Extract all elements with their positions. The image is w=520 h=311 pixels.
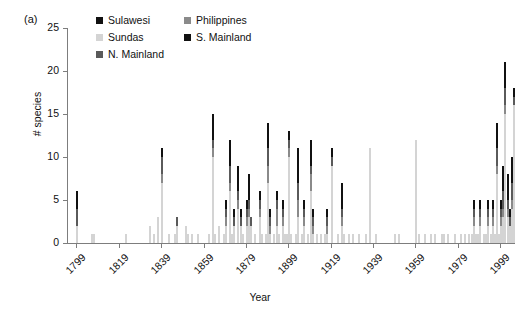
bar-segment-s_mainland xyxy=(248,183,250,200)
bar-segment-sundas xyxy=(398,234,400,243)
bar-segment-philippines xyxy=(341,217,343,226)
x-tick-label: 1959 xyxy=(402,251,427,276)
bar-1949 xyxy=(394,234,396,243)
bar-segment-n_mainland xyxy=(473,209,475,218)
x-tick-label: 1839 xyxy=(148,251,173,276)
bar-segment-sundas xyxy=(161,183,163,243)
x-tick xyxy=(373,244,374,248)
y-tick xyxy=(63,114,67,115)
bar-segment-s_mainland xyxy=(288,131,290,140)
bar-segment-n_mainland xyxy=(267,148,269,165)
legend-swatch-icon xyxy=(184,17,191,24)
bar-1851 xyxy=(187,234,189,243)
bar-segment-philippines xyxy=(487,217,489,226)
bar-segment-s_mainland xyxy=(237,174,239,191)
x-tick-label: 1979 xyxy=(445,251,470,276)
bar-segment-philippines xyxy=(310,174,312,191)
bar-1932 xyxy=(358,234,360,243)
bar-segment-n_mainland xyxy=(76,209,78,226)
bar-segment-philippines xyxy=(212,148,214,157)
bar-segment-n_mainland xyxy=(176,217,178,226)
bar-1914 xyxy=(320,234,322,243)
bar-segment-sundas xyxy=(261,234,263,243)
bar-segment-sundas xyxy=(434,234,436,243)
bar-segment-philippines xyxy=(312,226,314,235)
bar-segment-philippines xyxy=(248,209,250,218)
bar-segment-s_mainland xyxy=(161,148,163,157)
bar-segment-sundas xyxy=(369,148,371,243)
bar-segment-sundas xyxy=(242,234,244,243)
plot-area xyxy=(68,28,515,243)
bar-segment-sundas xyxy=(212,157,214,183)
x-tick xyxy=(500,244,501,248)
x-tick xyxy=(246,244,247,248)
bar-segment-sundas xyxy=(93,234,95,243)
bar-segment-sundas xyxy=(415,148,417,243)
bar-segment-sundas xyxy=(352,234,354,243)
bar-segment-philippines xyxy=(269,226,271,235)
bar-segment-sundas xyxy=(331,166,333,175)
bar-segment-philippines xyxy=(229,183,231,192)
bar-1877 xyxy=(242,234,244,243)
bar-1833 xyxy=(149,226,151,243)
bar-segment-sundas xyxy=(331,174,333,243)
bar-segment-s_mainland xyxy=(310,148,312,165)
bar-segment-sundas xyxy=(233,226,235,243)
bar-segment-n_mainland xyxy=(310,166,312,175)
bar-segment-s_mainland xyxy=(225,200,227,209)
y-tick xyxy=(63,71,67,72)
bar-1912 xyxy=(316,234,318,243)
bar-1951 xyxy=(398,234,400,243)
y-tick-label: 0 xyxy=(33,236,59,248)
bar-segment-s_mainland xyxy=(240,209,242,218)
bar-segment-sundas xyxy=(214,234,216,243)
bar-segment-n_mainland xyxy=(507,200,509,209)
bar-1835 xyxy=(153,234,155,243)
bar-segment-sundas xyxy=(343,234,345,243)
x-tick-label: 1819 xyxy=(106,251,131,276)
x-tick-label: 1899 xyxy=(275,251,300,276)
x-tick-label: 1939 xyxy=(360,251,385,276)
bar-segment-philippines xyxy=(276,209,278,226)
bar-segment-philippines xyxy=(282,217,284,226)
y-tick-label: 5 xyxy=(33,193,59,205)
bar-segment-sundas xyxy=(176,226,178,243)
bar-segment-n_mainland xyxy=(259,200,261,209)
bar-segment-s_mainland xyxy=(76,191,78,208)
bar-segment-philippines xyxy=(259,209,261,218)
bar-segment-s_mainland xyxy=(282,200,284,209)
bar-1982 xyxy=(464,234,466,243)
bar-segment-sulawesi xyxy=(267,123,269,132)
bar-segment-sundas xyxy=(316,234,318,243)
bar-1927 xyxy=(348,234,350,243)
bar-segment-sundas xyxy=(168,234,170,243)
x-tick xyxy=(458,244,459,248)
bar-segment-philippines xyxy=(161,174,163,183)
bar-segment-sundas xyxy=(288,157,290,166)
x-tick-label: 1879 xyxy=(233,251,258,276)
bar-segment-n_mainland xyxy=(250,217,252,226)
bar-segment-s_mainland xyxy=(326,209,328,218)
bar-segment-s_mainland xyxy=(267,131,269,148)
bar-segment-sundas xyxy=(513,123,515,243)
bar-segment-sundas xyxy=(250,226,252,243)
bar-segment-sundas xyxy=(153,234,155,243)
x-tick xyxy=(288,244,289,248)
bar-1871 xyxy=(229,140,231,243)
bar-segment-n_mainland xyxy=(487,209,489,218)
bar-segment-sundas xyxy=(443,234,445,243)
bar-segment-philippines xyxy=(473,217,475,226)
bar-1846 xyxy=(176,217,178,243)
bar-segment-n_mainland xyxy=(326,217,328,226)
bar-segment-sundas xyxy=(197,234,199,243)
bar-segment-sundas xyxy=(365,234,367,243)
bar-1929 xyxy=(352,234,354,243)
bar-segment-n_mainland xyxy=(297,183,299,200)
bar-segment-sundas xyxy=(337,234,339,243)
x-tick xyxy=(76,244,77,248)
bar-segment-n_mainland xyxy=(312,217,314,226)
bar-1974 xyxy=(447,234,449,243)
bar-segment-sundas xyxy=(464,234,466,243)
bar-segment-sulawesi xyxy=(341,183,343,192)
bar-1925 xyxy=(343,234,345,243)
